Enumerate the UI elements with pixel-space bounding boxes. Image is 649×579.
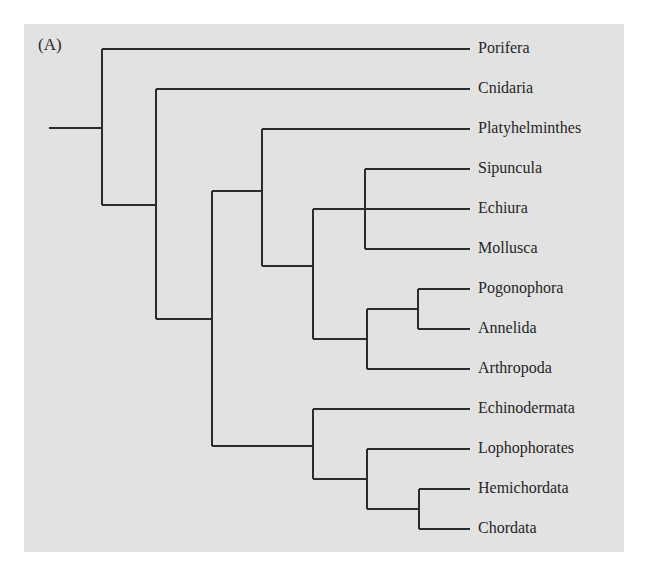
taxon-label-lophophorates: Lophophorates: [478, 438, 574, 458]
taxon-label-pogonophora: Pogonophora: [478, 278, 563, 298]
taxon-label-hemichordata: Hemichordata: [478, 478, 569, 498]
taxon-label-echinodermata: Echinodermata: [478, 398, 575, 418]
taxon-label-mollusca: Mollusca: [478, 238, 538, 258]
taxon-label-platyhelminthes: Platyhelminthes: [478, 118, 581, 138]
taxon-label-sipuncula: Sipuncula: [478, 158, 542, 178]
tree-branches: [49, 49, 470, 529]
taxon-label-cnidaria: Cnidaria: [478, 78, 533, 98]
taxon-label-chordata: Chordata: [478, 518, 537, 538]
taxon-label-annelida: Annelida: [478, 318, 537, 338]
taxon-label-porifera: Porifera: [478, 38, 530, 58]
taxon-label-arthropoda: Arthropoda: [478, 358, 552, 378]
taxon-label-echiura: Echiura: [478, 198, 528, 218]
